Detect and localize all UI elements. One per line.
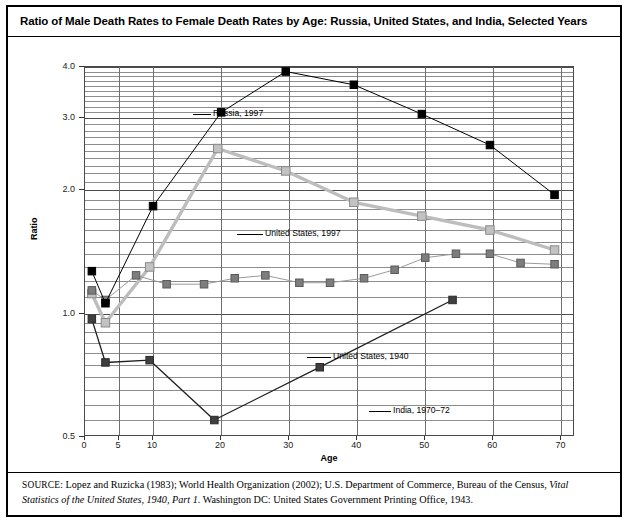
- data-point-marker: [163, 281, 171, 289]
- data-point-marker: [551, 261, 559, 269]
- data-point-marker: [101, 319, 110, 328]
- data-point-marker: [88, 267, 96, 275]
- data-point-marker: [422, 254, 430, 262]
- data-point-marker: [211, 416, 219, 424]
- data-point-marker: [551, 191, 559, 199]
- x-tick-label: 50: [419, 440, 429, 450]
- data-point-marker: [486, 226, 495, 235]
- y-tick-label: 1.0: [41, 308, 75, 318]
- source-text-2: . Washington DC: United States Governmen…: [198, 494, 473, 505]
- x-tick-label: 10: [147, 440, 157, 450]
- data-point-marker: [200, 281, 208, 289]
- annotation-united-states-1940: United States, 1940: [333, 351, 409, 361]
- data-point-marker: [102, 300, 110, 308]
- x-tick-label: 40: [351, 440, 361, 450]
- y-tick-label: 0.5: [41, 431, 75, 441]
- chart-container: Ratio Age 0.51.02.03.04.0 05102030405060…: [27, 44, 605, 459]
- data-point-marker: [231, 275, 239, 283]
- data-point-marker: [486, 250, 494, 258]
- y-tick-label: 4.0: [41, 61, 75, 71]
- y-axis-title: Ratio: [29, 218, 39, 241]
- data-point-marker: [296, 279, 304, 287]
- page-title: Ratio of Male Death Rates to Female Deat…: [20, 14, 600, 28]
- annotation-india: India, 1970–72: [393, 405, 450, 415]
- data-point-marker: [418, 212, 427, 221]
- leader-line-united-states-1997: [237, 234, 263, 235]
- y-tick-label: 2.0: [41, 184, 75, 194]
- data-point-marker: [146, 356, 154, 364]
- data-point-marker: [449, 296, 457, 304]
- source-text-1: Lopez and Ruzicka (1983); World Health O…: [63, 479, 549, 490]
- data-point-marker: [350, 81, 358, 89]
- data-point-marker: [145, 263, 154, 272]
- data-point-marker: [316, 364, 324, 372]
- data-point-marker: [149, 202, 157, 210]
- x-tick-label: 30: [283, 440, 293, 450]
- data-point-marker: [452, 250, 460, 258]
- leader-line-india: [369, 411, 391, 412]
- data-point-marker: [282, 167, 291, 176]
- x-tick-label: 0: [81, 440, 86, 450]
- data-point-marker: [350, 198, 359, 207]
- data-point-marker: [282, 68, 290, 76]
- source-divider: [8, 472, 620, 473]
- source-note: SOURCE: Lopez and Ruzicka (1983); World …: [22, 478, 606, 506]
- plot-area: Russia, 1997 United States, 1997 United …: [84, 66, 574, 436]
- x-tick-label: 5: [115, 440, 120, 450]
- data-point-marker: [326, 279, 334, 287]
- data-point-marker: [88, 287, 96, 295]
- annotation-united-states-1997: United States, 1997: [265, 228, 341, 238]
- figure-page: Ratio of Male Death Rates to Female Deat…: [0, 0, 628, 523]
- source-label: SOURCE:: [22, 480, 63, 490]
- data-point-marker: [132, 272, 140, 280]
- data-point-marker: [88, 315, 96, 323]
- x-tick-label: 60: [487, 440, 497, 450]
- x-axis-title: Age: [320, 453, 337, 463]
- data-point-marker: [486, 141, 494, 149]
- data-point-marker: [360, 275, 368, 283]
- x-tick-label: 70: [555, 440, 565, 450]
- data-point-marker: [262, 272, 270, 280]
- title-divider: [8, 36, 620, 37]
- leader-line-russia: [193, 114, 211, 115]
- data-point-marker: [214, 144, 223, 153]
- data-point-marker: [517, 259, 525, 267]
- series-line: [92, 254, 555, 300]
- annotation-russia: Russia, 1997: [213, 108, 263, 118]
- data-point-marker: [102, 359, 110, 367]
- leader-line-united-states-1940: [307, 357, 331, 358]
- data-point-marker: [418, 110, 426, 118]
- data-series-layer: [85, 67, 575, 437]
- y-tick-label: 3.0: [41, 112, 75, 122]
- data-point-marker: [550, 246, 559, 255]
- x-tick-label: 20: [215, 440, 225, 450]
- data-point-marker: [391, 266, 399, 274]
